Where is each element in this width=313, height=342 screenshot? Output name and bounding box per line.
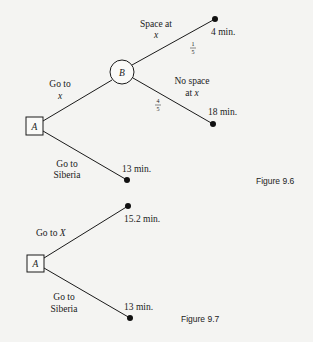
outcome-siberia-label: 13 min. (124, 302, 153, 312)
label-go-to-siberia-2: Siberia (54, 170, 82, 180)
outcome-go-to-x-label: 15.2 min. (124, 214, 160, 224)
chance-node-label: B (119, 68, 125, 78)
prob-space-num: 1 (192, 41, 195, 47)
prob-space-den: 5 (192, 49, 195, 55)
label-go-to-siberia-2: Siberia (51, 304, 79, 314)
label-space-at: Space at (140, 19, 172, 29)
prob-no-space-num: 4 (157, 98, 160, 104)
outcome-space-label: 4 min. (211, 27, 235, 37)
figure-caption: Figure 9.6 (256, 176, 295, 186)
outcome-no-space-label: 18 min. (208, 107, 237, 117)
outcome-dot-no-space (210, 121, 216, 127)
decision-node-label: A (32, 259, 39, 269)
figure-9-7: A 15.2 min. Go to X Go to Siberia 13 min… (27, 203, 220, 324)
label-go-to-siberia-1: Go to (53, 292, 75, 302)
outcome-siberia-label: 13 min. (122, 164, 151, 174)
prob-no-space-den: 5 (157, 106, 160, 112)
outcome-dot-go-to-x (125, 203, 131, 209)
label-go-to-siberia-1: Go to (56, 159, 78, 169)
decision-tree-figures: A B Go to x Space at x 1 5 4 min. No spa… (0, 0, 313, 342)
figure-caption: Figure 9.7 (181, 314, 220, 324)
outcome-dot-siberia (124, 177, 130, 183)
decision-node-label: A (31, 122, 38, 132)
figure-9-6: A B Go to x Space at x 1 5 4 min. No spa… (26, 16, 295, 186)
outcome-dot-siberia (127, 315, 133, 321)
label-go-to-x: Go to X (36, 228, 67, 238)
label-go-to: Go to (49, 79, 71, 89)
label-no-space: No space (174, 76, 209, 86)
label-x: x (57, 91, 63, 101)
label-at-x: at x (185, 88, 199, 98)
outcome-dot-space (212, 16, 218, 22)
label-space-x: x (153, 30, 159, 40)
